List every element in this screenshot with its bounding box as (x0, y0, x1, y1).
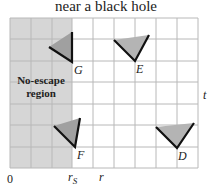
x-axis-label: r (99, 170, 104, 185)
event-label-f: F (77, 148, 84, 163)
black-hole-spacetime-diagram: near a black hole (0, 0, 212, 186)
region-label-line1: No-escape (10, 74, 72, 87)
event-label-d: D (178, 149, 187, 164)
region-label-line2: region (10, 87, 72, 100)
y-axis-label: t (203, 88, 206, 103)
event-label-e: E (136, 62, 143, 77)
light-cone-d (156, 123, 194, 148)
no-escape-region-label: No-escape region (10, 74, 72, 100)
event-label-g: G (74, 63, 83, 78)
rs-subscript: S (73, 176, 78, 186)
schwarzschild-radius-label: rS (68, 170, 77, 186)
origin-label: 0 (7, 172, 13, 186)
